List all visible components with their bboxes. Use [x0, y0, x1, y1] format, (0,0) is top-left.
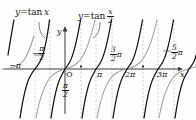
tick-label-five-halves-pi: 5 2 π	[171, 44, 183, 61]
eq1-function: tan	[28, 8, 43, 17]
origin-label: O	[66, 71, 73, 79]
x-axis-label: x	[180, 71, 185, 79]
tick-label-neg-pi: −π	[9, 62, 21, 70]
pi-over-2-numerator: π	[62, 82, 69, 90]
tick-label-pi-over-2: π 2	[62, 82, 69, 99]
y-axis-label: y	[57, 28, 62, 36]
three-halves-pi-numerator: 3	[110, 46, 117, 54]
three-halves-pi-denominator: 2	[110, 54, 117, 63]
tick-label-two-pi: 2π	[125, 71, 135, 79]
equation-label-tan-x: y=tanx	[15, 8, 49, 17]
five-halves-pi-numerator: 5	[171, 44, 178, 52]
eq2-arg-numerator: x	[107, 8, 114, 16]
tick-label-three-halves-pi: 3 2 π	[110, 46, 122, 63]
tick-label-three-pi: 3π	[157, 71, 167, 79]
eq1-argument: x	[42, 8, 49, 17]
three-halves-pi-suffix: π	[117, 51, 122, 59]
neg-pi-over-2-denominator: 2	[38, 53, 45, 62]
five-halves-pi-denominator: 2	[171, 52, 178, 61]
eq2-function: tan	[91, 12, 106, 21]
tangent-graph-figure: y=tanx y=tan x 2 y x O −π − π 2 π 2 π 3 …	[0, 0, 196, 120]
tick-label-pi: π	[97, 71, 102, 79]
tick-label-neg-pi-over-2: − π 2	[32, 45, 45, 62]
equation-label-tan-half-x: y=tan x 2	[78, 8, 114, 24]
five-halves-pi-suffix: π	[178, 49, 183, 57]
pi-over-2-denominator: 2	[62, 90, 69, 99]
eq2-equals: =	[83, 12, 91, 21]
eq1-equals: =	[20, 8, 28, 17]
neg-pi-over-2-numerator: π	[38, 45, 45, 53]
eq2-arg-denominator: 2	[107, 16, 114, 25]
